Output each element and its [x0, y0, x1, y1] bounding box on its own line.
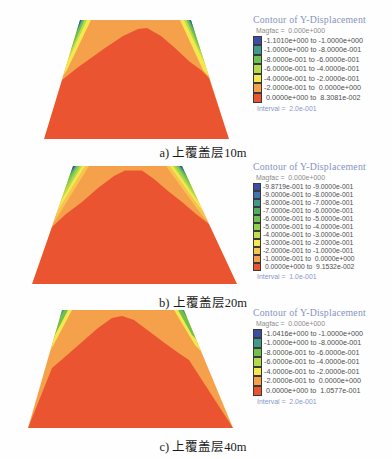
color-swatch: [253, 329, 262, 339]
range-label: -4.0000e-001 to -3.0000e-001: [263, 231, 353, 239]
legend-row: -9.8719e-001 to -9.0000e-001: [253, 183, 392, 191]
range-label: -2.0000e-001 to 0.0000e+000: [264, 376, 361, 386]
legend-b: Contour of Y-Displacement Magfac = 0.000…: [253, 161, 392, 280]
color-swatch: [253, 348, 262, 358]
range-label: -1.0000e-001 to 0.0000e+000: [263, 255, 355, 263]
contour-plot-a: [43, 18, 230, 140]
color-swatch: [253, 247, 261, 255]
range-label: -3.0000e-001 to -2.0000e-001: [263, 239, 353, 247]
range-label: -9.0000e-001 to -8.0000e-001: [263, 191, 353, 199]
legend-c-interval: Interval = 2.0e-001: [257, 398, 392, 405]
legend-c: Contour of Y-Displacement Magfac = 0.000…: [253, 307, 392, 405]
legend-b-title: Contour of Y-Displacement: [253, 161, 392, 172]
color-swatch: [253, 36, 262, 46]
contour-plot-c: [26, 308, 234, 429]
color-swatch: [253, 386, 262, 396]
legend-row: -4.0000e-001 to -3.0000e-001: [253, 231, 392, 239]
range-label: -9.8719e-001 to -9.0000e-001: [263, 183, 353, 191]
legend-a-title: Contour of Y-Displacement: [253, 14, 392, 25]
legend-c-title: Contour of Y-Displacement: [253, 307, 392, 318]
band-red: [32, 171, 237, 285]
legend-row: -1.1010e+000 to -1.0000e+000: [253, 36, 392, 46]
legend-b-magfac: Magfac = 0.000e+000: [256, 174, 392, 181]
legend-row: -7.0000e-001 to -6.0000e-001: [253, 207, 392, 215]
legend-row: -8.0000e-001 to -6.0000e-001: [253, 348, 392, 358]
range-label: -6.0000e-001 to -4.0000e-001: [264, 64, 360, 74]
range-label: -6.0000e-001 to -5.0000e-001: [263, 215, 353, 223]
legend-row: -4.0000e-001 to -2.0000e-001: [253, 367, 392, 377]
range-label: -1.0416e+000 to -1.0000e+000: [264, 329, 363, 339]
legend-row: -8.0000e-001 to -6.0000e-001: [253, 55, 392, 65]
range-label: -6.0000e-001 to -4.0000e-001: [264, 357, 360, 367]
range-label: 0.0000e+000 to 1.0577e-001: [264, 386, 361, 396]
legend-a-interval: Interval = 2.0e-001: [257, 105, 392, 112]
color-swatch: [253, 367, 262, 377]
caption-c: c) 上覆盖层40m: [118, 436, 288, 455]
legend-c-rows: -1.0416e+000 to -1.0000e+000 -1.0000e+00…: [253, 329, 392, 396]
color-swatch: [253, 231, 261, 239]
legend-b-interval: Interval = 1.0e-001: [257, 273, 392, 280]
color-swatch: [253, 263, 261, 271]
legend-row: -1.0416e+000 to -1.0000e+000: [253, 329, 392, 339]
legend-row: -5.0000e-001 to -4.0000e-001: [253, 223, 392, 231]
range-label: 0.0000e+000 to 9.1532e-002: [263, 263, 354, 271]
legend-a-magfac: Magfac = 0.000e+000: [256, 27, 392, 34]
color-swatch: [253, 223, 261, 231]
range-label: -4.0000e-001 to -2.0000e-001: [264, 367, 360, 377]
range-label: -8.0000e-001 to -6.0000e-001: [264, 55, 360, 65]
color-swatch: [253, 55, 262, 65]
range-label: -2.0000e-001 to -1.0000e-001: [263, 247, 353, 255]
range-label: -1.1010e+000 to -1.0000e+000: [264, 36, 363, 46]
color-swatch: [253, 357, 262, 367]
color-swatch: [253, 239, 261, 247]
contour-plot-b: [30, 164, 238, 285]
range-label: -2.0000e-001 to 0.0000e+000: [264, 83, 361, 93]
legend-row: -6.0000e-001 to -4.0000e-001: [253, 357, 392, 367]
legend-row: -1.0000e+000 to -8.0000e-001: [253, 338, 392, 348]
legend-row: -1.0000e+000 to -8.0000e-001: [253, 45, 392, 55]
legend-row: -1.0000e-001 to 0.0000e+000: [253, 255, 392, 263]
color-swatch: [253, 338, 262, 348]
color-swatch: [253, 83, 262, 93]
legend-a: Contour of Y-Displacement Magfac = 0.000…: [253, 14, 392, 112]
range-label: -4.0000e-001 to -2.0000e-001: [264, 74, 360, 84]
color-swatch: [253, 64, 262, 74]
legend-row: 0.0000e+000 to 1.0577e-001: [253, 386, 392, 396]
figure-page: a) 上覆盖层10m Contour of Y-Displacement Mag…: [0, 0, 392, 459]
legend-row: -9.0000e-001 to -8.0000e-001: [253, 191, 392, 199]
legend-b-rows: -9.8719e-001 to -9.0000e-001 -9.0000e-00…: [253, 183, 392, 271]
range-label: -1.0000e+000 to -8.0000e-001: [264, 45, 361, 55]
color-swatch: [253, 199, 261, 207]
legend-row: -8.0000e-001 to -7.0000e-001: [253, 199, 392, 207]
range-label: -8.0000e-001 to -6.0000e-001: [264, 348, 360, 358]
range-label: -8.0000e-001 to -7.0000e-001: [263, 199, 353, 207]
color-swatch: [253, 93, 262, 103]
legend-row: -6.0000e-001 to -5.0000e-001: [253, 215, 392, 223]
legend-row: -2.0000e-001 to 0.0000e+000: [253, 83, 392, 93]
legend-row: -3.0000e-001 to -2.0000e-001: [253, 239, 392, 247]
color-swatch: [253, 74, 262, 84]
color-swatch: [253, 376, 262, 386]
legend-a-rows: -1.1010e+000 to -1.0000e+000 -1.0000e+00…: [253, 36, 392, 103]
range-label: -1.0000e+000 to -8.0000e-001: [264, 338, 361, 348]
color-swatch: [253, 255, 261, 263]
color-swatch: [253, 207, 261, 215]
caption-a: a) 上覆盖层10m: [118, 142, 288, 161]
legend-row: -2.0000e-001 to 0.0000e+000: [253, 376, 392, 386]
legend-c-magfac: Magfac = 0.000e+000: [256, 320, 392, 327]
color-swatch: [253, 183, 261, 191]
range-label: 0.0000e+000 to 8.3081e-002: [264, 93, 361, 103]
legend-row: 0.0000e+000 to 8.3081e-002: [253, 93, 392, 103]
band-red: [44, 28, 229, 139]
range-label: -7.0000e-001 to -6.0000e-001: [263, 207, 353, 215]
color-swatch: [253, 45, 262, 55]
color-swatch: [253, 191, 261, 199]
legend-row: -6.0000e-001 to -4.0000e-001: [253, 64, 392, 74]
legend-row: -4.0000e-001 to -2.0000e-001: [253, 74, 392, 84]
color-swatch: [253, 215, 261, 223]
legend-row: -2.0000e-001 to -1.0000e-001: [253, 247, 392, 255]
legend-row: 0.0000e+000 to 9.1532e-002: [253, 263, 392, 271]
range-label: -5.0000e-001 to -4.0000e-001: [263, 223, 353, 231]
